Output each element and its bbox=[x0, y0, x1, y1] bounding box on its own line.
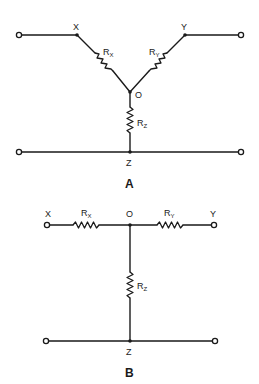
resistor-b-ry bbox=[157, 222, 183, 228]
wire-a-ry-to-o bbox=[130, 71, 149, 92]
label-a-z: Z bbox=[126, 158, 132, 168]
node-a-x bbox=[75, 33, 79, 37]
node-a-o bbox=[128, 90, 132, 94]
terminal-b-bottom-left bbox=[43, 338, 48, 343]
terminal-b-y bbox=[211, 222, 216, 227]
wire-a-x-to-rx bbox=[77, 35, 95, 53]
node-b-o bbox=[128, 223, 132, 227]
node-b-z bbox=[128, 339, 132, 343]
label-a-x: X bbox=[73, 22, 79, 32]
circuit-diagrams: X Y O Z RX RY RZ A X Y O Z RX bbox=[0, 0, 259, 384]
label-b-ry: RY bbox=[164, 208, 175, 219]
label-b-rz: RZ bbox=[137, 281, 148, 292]
label-a-rx: RX bbox=[103, 47, 114, 58]
resistor-b-rz bbox=[127, 272, 133, 298]
caption-b: B bbox=[125, 366, 134, 380]
label-a-y: Y bbox=[181, 22, 187, 32]
wire-a-y-to-ry bbox=[167, 35, 185, 53]
terminal-a-bottom-left bbox=[16, 149, 21, 154]
node-a-y bbox=[183, 33, 187, 37]
label-b-x: X bbox=[45, 209, 51, 219]
wire-a-rx-to-o bbox=[113, 71, 130, 92]
label-b-rx: RX bbox=[81, 208, 92, 219]
node-a-z bbox=[128, 150, 132, 154]
caption-a: A bbox=[125, 177, 134, 191]
terminal-b-bottom-right bbox=[212, 338, 217, 343]
label-a-ry: RY bbox=[149, 47, 160, 58]
resistor-a-rz bbox=[127, 107, 133, 133]
terminal-a-top-right bbox=[238, 32, 243, 37]
label-b-y: Y bbox=[210, 209, 216, 219]
label-a-o: O bbox=[135, 90, 142, 100]
label-b-o: O bbox=[126, 209, 133, 219]
terminal-a-top-left bbox=[16, 32, 21, 37]
label-b-z: Z bbox=[126, 347, 132, 357]
diagram-b-tee-network: X Y O Z RX RY RZ B bbox=[43, 208, 217, 380]
terminal-b-x bbox=[44, 222, 49, 227]
label-a-rz: RZ bbox=[137, 118, 148, 129]
resistor-b-rx bbox=[73, 222, 99, 228]
terminal-a-bottom-right bbox=[238, 149, 243, 154]
diagram-a-wye-network: X Y O Z RX RY RZ A bbox=[16, 22, 243, 191]
